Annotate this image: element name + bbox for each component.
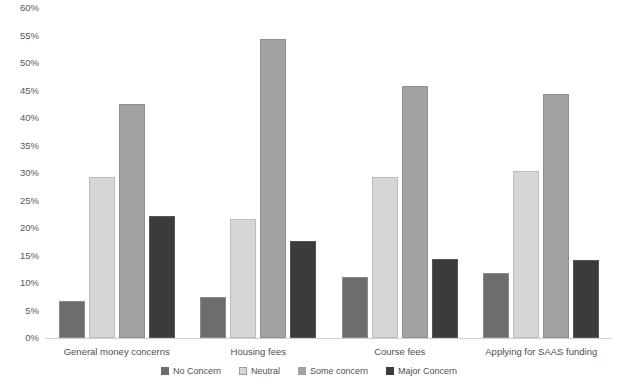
bar-group-bars	[46, 8, 188, 338]
legend-label: Neutral	[251, 366, 280, 376]
y-axis-tick-label: 0%	[25, 333, 39, 343]
bar	[89, 177, 115, 338]
bar	[200, 297, 226, 338]
bar-group	[188, 8, 330, 338]
legend-swatch-icon	[386, 367, 394, 375]
y-axis-tick-label: 5%	[25, 306, 39, 316]
legend-label: Some concern	[310, 366, 368, 376]
x-axis-category-label: General money concerns	[64, 346, 170, 357]
x-axis-baseline	[46, 338, 612, 339]
y-axis-tick-label: 20%	[20, 223, 39, 233]
y-axis-tick-label: 25%	[20, 196, 39, 206]
bar	[290, 241, 316, 338]
x-axis-category-label: Course fees	[374, 346, 425, 357]
legend-item[interactable]: Some concern	[298, 366, 368, 376]
bar	[119, 104, 145, 338]
bar	[513, 171, 539, 338]
bar	[543, 94, 569, 338]
chart-legend: No ConcernNeutralSome concernMajor Conce…	[0, 366, 618, 376]
x-axis-category-label: Applying for SAAS funding	[485, 346, 597, 357]
bar-chart: 60%55%50%45%40%35%30%25%20%15%10%5%0% No…	[0, 0, 618, 387]
legend-item[interactable]: No Concern	[161, 366, 221, 376]
bar-group	[46, 8, 188, 338]
bar-group	[471, 8, 613, 338]
bar	[59, 301, 85, 338]
bar-group	[329, 8, 471, 338]
y-axis-tick-label: 10%	[20, 278, 39, 288]
bar	[149, 216, 175, 338]
y-axis-tick-label: 45%	[20, 86, 39, 96]
bar-group-bars	[188, 8, 330, 338]
legend-swatch-icon	[298, 367, 306, 375]
bar	[230, 219, 256, 338]
legend-item[interactable]: Major Concern	[386, 366, 457, 376]
y-axis-tick-label: 15%	[20, 251, 39, 261]
legend-item[interactable]: Neutral	[239, 366, 280, 376]
bar	[342, 277, 368, 338]
y-axis-tick-label: 30%	[20, 168, 39, 178]
y-axis-tick-label: 60%	[20, 3, 39, 13]
plot-area	[46, 8, 612, 338]
y-axis-tick-label: 35%	[20, 141, 39, 151]
bar	[483, 273, 509, 338]
bar-group-bars	[329, 8, 471, 338]
legend-swatch-icon	[239, 367, 247, 375]
legend-swatch-icon	[161, 367, 169, 375]
x-axis-category-label: Housing fees	[231, 346, 286, 357]
bar-group-bars	[471, 8, 613, 338]
y-axis-tick-label: 55%	[20, 31, 39, 41]
y-axis-tick-label: 40%	[20, 113, 39, 123]
y-axis: 60%55%50%45%40%35%30%25%20%15%10%5%0%	[0, 0, 44, 338]
bar	[402, 86, 428, 338]
bar	[432, 259, 458, 338]
legend-label: Major Concern	[398, 366, 457, 376]
bar	[372, 177, 398, 338]
legend-label: No Concern	[173, 366, 221, 376]
bar	[260, 39, 286, 338]
y-axis-tick-label: 50%	[20, 58, 39, 68]
bar	[573, 260, 599, 338]
